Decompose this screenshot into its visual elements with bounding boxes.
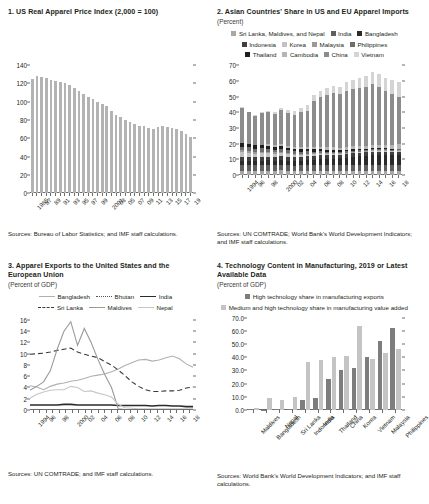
panel-1-y-label: 20 [20,171,27,178]
panel-3-y-tick-right [193,353,196,354]
panel-3-x-label: 12 [153,414,162,423]
panel-4-source: Sources: World Bank's World Development … [217,472,412,488]
table-row [339,370,344,410]
panel-3-legend-row: Sri LankaMaldivesNepal [8,303,203,312]
panel-3-y-tick-right [193,409,196,410]
panel-3-y-tick-right [193,364,196,365]
panel-4-y-tick [244,396,247,397]
table-row [157,127,160,193]
panel-2-legend-swatch [354,52,359,57]
line-series [30,356,193,390]
panel-3-legend-label: India [159,292,172,301]
panel-4-y-tick-right [402,344,405,345]
bar-inner [306,65,310,175]
panel-4-title: 4. Technology Content in Manufacturing, … [217,262,412,280]
panel-1-source: Sources: Bureau of Labor Statistics; and… [8,230,203,238]
panel-1-x-label: 15 [174,197,183,206]
bar-group-inner [313,318,323,410]
panel-2-legend-label: Indonesia [249,40,276,49]
panel-3-subtitle: (Percent of GDP) [8,281,203,289]
panel-2-y-label: 70 [229,62,236,69]
panel-3-legend-line-swatch [89,307,105,308]
panel-2-legend-swatch [231,31,236,36]
stack-segment [345,158,349,166]
panel-2-x-label: 12 [362,179,371,188]
table-row [161,126,164,193]
panel-3-legend-label: Bangladesh [57,292,90,301]
panel-4-bars [247,318,402,410]
panel-2-x-label: 18 [401,179,410,188]
table-row [306,362,311,410]
panel-3-legend-item: Bhutan [96,292,134,301]
stack-segment [325,88,329,95]
table-row [152,129,155,193]
panel-3-y-tick-right [193,398,196,399]
panel-1-x-label: 17 [183,197,192,206]
panel-1-y-label: 60 [20,135,27,142]
table-row [50,80,53,193]
panel-3-x-label: 10 [140,414,149,423]
stack-segment [332,93,336,147]
panel-2-x-labels: 199496982000020406081012141618 [239,179,402,203]
panel-4-y-label: 20.0 [232,380,244,387]
line-series [30,404,193,406]
stack-segment [358,78,362,88]
bar-inner [377,65,381,175]
stack-segment [273,114,277,145]
stack-segment [351,80,355,89]
panel-2-legend-row: Sri Lanka, Maldives, and NepalIndiaBangl… [217,29,412,38]
panel-4-technology-content: 4. Technology Content in Manufacturing, … [209,262,418,504]
table-row [365,357,370,410]
panel-2-legend-swatch [282,52,287,57]
panel-3-legend-item: Bangladesh [39,292,90,301]
table-row [147,128,150,193]
panel-1-y-tick-right [193,83,196,84]
panel-3-legend-line-swatch [138,307,154,308]
panel-2-y-tick [236,128,239,129]
panel-3-y-tick [27,353,30,354]
panel-2-x-label: 96 [257,179,266,188]
panel-2-legend-swatch [331,31,336,36]
panel-3-legend-item: Maldives [89,303,132,312]
stack-segment [377,87,381,145]
table-row [87,97,90,193]
panel-3-x-label: 16 [179,414,188,423]
panel-2-y-tick [236,65,239,66]
panel-2-legend-label: India [338,29,351,38]
panel-3-x-labels: 199496982000020406081012141618 [30,414,193,438]
panel-2-y-label: 60 [229,77,236,84]
table-row [105,106,108,193]
panel-3-lines [30,320,193,410]
panel-3-legend-line-swatch [38,307,54,308]
panel-3-y-tick-right [193,319,196,320]
panel-2-y-tick [236,80,239,81]
bar-inner [371,65,375,175]
stack-segment [390,80,394,94]
table-row [313,398,318,410]
panel-3-x-label: 04 [100,414,109,423]
panel-1-y-tick-right [193,156,196,157]
panel-1-x-label: 07 [137,197,146,206]
panel-3-legend-label: Sri Lanka [57,303,83,312]
stack-segment [338,94,342,147]
panel-1-title: 1. US Real Apparel Price Index (2,000 = … [8,8,203,17]
panel-4-legend-row: Medium and high technology share in manu… [217,303,412,312]
panel-1-y-label: 40 [20,153,27,160]
stack-segment [260,113,264,144]
bar-inner [364,65,368,175]
table-row [40,77,43,193]
stack-segment [286,113,290,146]
panel-2-y-tick-right [402,96,405,97]
panel-3-legend-row: BangladeshBhutanIndia [8,292,203,301]
panel-4-x-label: Korea [361,414,377,430]
panel-1-y-tick-right [193,138,196,139]
table-row [326,379,331,410]
panel-2-legend-row: ThailandCambodiaChinaVietnam [217,50,412,59]
table-row [138,126,141,194]
panel-3-x-label: 96 [48,414,57,423]
panel-4-y-tick-right [402,409,405,410]
table-row [59,82,62,194]
stack-segment [240,108,244,143]
panel-2-y-label: 40 [229,109,236,116]
panel-3-y-tick [27,376,30,377]
